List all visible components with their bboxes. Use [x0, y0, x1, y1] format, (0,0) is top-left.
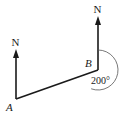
north-arrowhead-b: [95, 16, 101, 25]
segment-ab: [16, 70, 98, 99]
bearing-diagram: N N A B 200°: [0, 0, 128, 115]
north-label-b: N: [94, 3, 102, 15]
point-label-b: B: [85, 57, 92, 69]
north-arrowhead-a: [13, 49, 19, 58]
point-label-a: A: [5, 101, 13, 113]
angle-label: 200°: [91, 75, 110, 86]
north-label-a: N: [12, 36, 20, 48]
